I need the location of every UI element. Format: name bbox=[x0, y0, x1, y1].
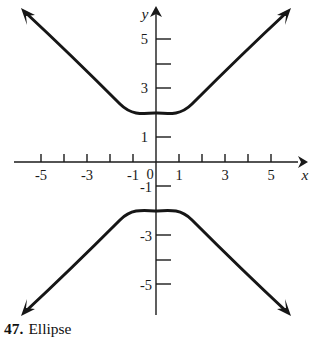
y-axis-label: y bbox=[140, 5, 149, 22]
y-tick-label-3: 3 bbox=[141, 80, 148, 96]
y-tick-label-1: 1 bbox=[141, 129, 148, 145]
figure-caption: 47.Ellipse bbox=[4, 320, 321, 338]
x-tick-label--3: -3 bbox=[81, 167, 93, 183]
caption-answer: Ellipse bbox=[28, 320, 71, 337]
y-tick-label--1: -1 bbox=[140, 179, 152, 195]
x-axis-label: x bbox=[301, 166, 309, 183]
y-tick-label--5: -5 bbox=[140, 277, 152, 293]
hyperbola-graph: -5 -3 -1 1 3 5 0 5 3 1 -1 -3 -5 x y bbox=[0, 0, 325, 318]
x-tick-label--1: -1 bbox=[127, 167, 139, 183]
figure-page: -5 -3 -1 1 3 5 0 5 3 1 -1 -3 -5 x y bbox=[0, 0, 325, 347]
x-tick-label-5: 5 bbox=[267, 167, 274, 183]
caption-number: 47. bbox=[4, 320, 23, 337]
y-tick-label--3: -3 bbox=[140, 228, 152, 244]
x-tick-label-3: 3 bbox=[221, 167, 228, 183]
x-tick-label--5: -5 bbox=[35, 167, 47, 183]
y-tick-label-5: 5 bbox=[141, 31, 148, 47]
x-tick-label-1: 1 bbox=[175, 167, 182, 183]
